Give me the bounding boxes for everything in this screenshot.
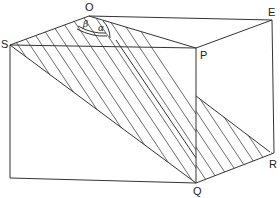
point-label-o: O <box>85 2 94 13</box>
hatched-triangle-pqr <box>114 60 280 198</box>
cuboid-drawing <box>0 0 280 198</box>
hatched-plane-osq <box>0 0 260 198</box>
point-label-e: E <box>268 7 275 18</box>
cuboid-edges <box>10 16 274 183</box>
point-label-p: P <box>200 50 207 61</box>
diagram-canvas: O E S P Q R β α <box>0 0 280 198</box>
point-label-r: R <box>269 159 277 170</box>
point-label-q: Q <box>193 186 202 197</box>
point-label-s: S <box>1 39 8 50</box>
angle-label-alpha: α <box>98 24 104 33</box>
angle-label-beta: β <box>83 20 88 29</box>
